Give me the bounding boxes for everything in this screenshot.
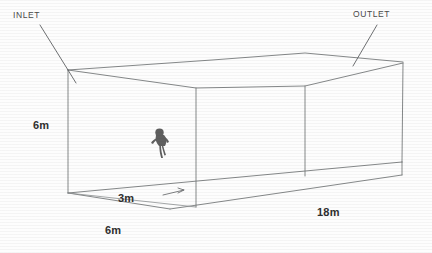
width-dimension-label: 6m <box>105 225 121 236</box>
floor-back-edge <box>68 162 402 193</box>
vertical-edge-far-right <box>402 63 403 162</box>
outlet-leader-line <box>353 25 377 66</box>
inlet-leader-tail <box>68 70 76 83</box>
height-dimension-label: 6m <box>33 120 49 131</box>
person-silhouette-icon <box>150 126 174 160</box>
diagram-canvas: INLET OUTLET 6m 3m 6m 18m <box>0 0 432 253</box>
inlet-label: INLET <box>13 11 40 20</box>
duct-wireframe <box>0 0 432 253</box>
length-dimension-label: 18m <box>317 207 340 218</box>
inner-dimension-label: 3m <box>118 193 134 204</box>
dimension-tick-inner <box>163 190 184 195</box>
inlet-leader-line <box>40 25 68 70</box>
outlet-label: OUTLET <box>353 10 390 19</box>
top-back-edge <box>68 53 403 70</box>
